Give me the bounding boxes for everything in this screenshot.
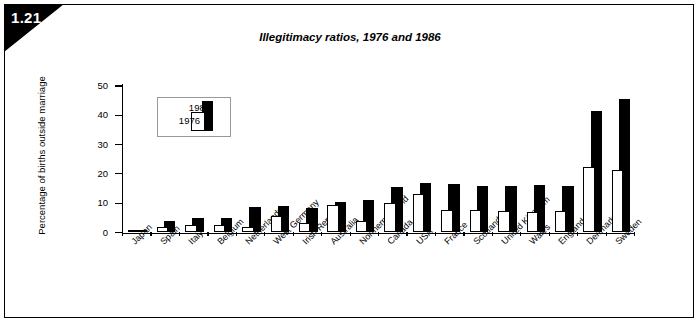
x-axis-tick xyxy=(264,232,265,236)
y-axis-tick xyxy=(115,203,122,204)
y-axis-title: Percentage of births outside marriage xyxy=(36,71,47,241)
y-axis-tick-label: 30 xyxy=(74,139,108,150)
bar-1976 xyxy=(583,167,595,233)
y-axis-tick xyxy=(115,173,122,174)
bar-1976 xyxy=(498,211,510,233)
bar-1976 xyxy=(527,212,539,233)
bar-1976 xyxy=(271,216,283,233)
bar-1976 xyxy=(555,211,567,232)
bar-1976 xyxy=(470,210,482,233)
x-axis-tick xyxy=(321,232,322,236)
bar-1976 xyxy=(128,230,140,232)
bar-1976 xyxy=(327,205,339,232)
y-axis-tick xyxy=(115,85,122,86)
x-axis-tick xyxy=(606,232,607,236)
x-axis-tick xyxy=(549,232,550,236)
x-axis-tick xyxy=(406,232,407,236)
y-axis-tick-label: 40 xyxy=(74,109,108,120)
bar-1976 xyxy=(612,170,624,233)
x-axis-tick xyxy=(179,232,180,236)
bar-1976 xyxy=(356,221,368,233)
x-axis-tick xyxy=(236,232,237,236)
y-axis-tick-label: 20 xyxy=(74,168,108,179)
x-axis-tick xyxy=(378,232,379,236)
bar-1976 xyxy=(384,203,396,232)
legend-label-1986: 1986 xyxy=(189,102,210,113)
x-axis-tick xyxy=(634,232,635,236)
bar-1976 xyxy=(299,223,311,232)
y-axis-tick-label: 50 xyxy=(74,80,108,91)
chart-legend: 1986 1976 xyxy=(157,97,231,137)
y-axis-tick xyxy=(115,232,122,233)
x-axis-tick xyxy=(463,232,464,236)
x-axis-tick xyxy=(577,232,578,236)
legend-label-1976: 1976 xyxy=(179,115,200,126)
x-axis-tick xyxy=(435,232,436,236)
x-axis-tick xyxy=(207,232,208,236)
plot-area: Percentage of births outside marriage 01… xyxy=(0,0,700,324)
bar-1976 xyxy=(157,227,169,233)
y-axis-tick xyxy=(115,144,122,145)
bar-1976 xyxy=(441,210,453,233)
x-axis-tick xyxy=(350,232,351,236)
x-axis-tick xyxy=(492,232,493,236)
x-axis-tick xyxy=(293,232,294,236)
bar-1976 xyxy=(214,225,226,232)
x-axis-tick xyxy=(122,232,123,236)
y-axis-line xyxy=(122,84,123,234)
x-axis-tick xyxy=(150,232,151,236)
bar-1976 xyxy=(413,194,425,232)
bar-1976 xyxy=(185,225,197,233)
y-axis-tick xyxy=(115,115,122,116)
y-axis-tick-label: 0 xyxy=(74,227,108,238)
x-axis-tick xyxy=(520,232,521,236)
bar-1976 xyxy=(242,227,254,233)
figure-page: 1.21 Illegitimacy ratios, 1976 and 1986 … xyxy=(0,0,700,324)
y-axis-tick-label: 10 xyxy=(74,197,108,208)
